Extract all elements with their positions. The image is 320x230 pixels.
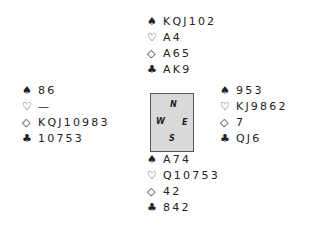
- east-hearts: KJ9862: [236, 99, 288, 115]
- compass-west-label: W: [156, 116, 165, 126]
- north-hearts: A4: [163, 30, 182, 46]
- south-clubs-row: ♣ 842: [147, 200, 220, 216]
- north-clubs: AK9: [163, 62, 191, 78]
- south-hearts: Q10753: [163, 168, 220, 184]
- compass-south-label: S: [169, 133, 175, 143]
- east-diamonds-row: ◇ 7: [220, 115, 288, 131]
- west-hand: ♠ 86 ♡ — ◇ KQJ10983 ♣ 10753: [22, 83, 110, 147]
- compass-north-label: N: [170, 99, 177, 109]
- north-clubs-row: ♣ AK9: [147, 62, 216, 78]
- west-hearts-row: ♡ —: [22, 99, 110, 115]
- south-hand: ♠ A74 ♡ Q10753 ◇ 42 ♣ 842: [147, 152, 220, 216]
- heart-icon: ♡: [22, 99, 38, 115]
- west-clubs-row: ♣ 10753: [22, 131, 110, 147]
- east-hearts-row: ♡ KJ9862: [220, 99, 288, 115]
- club-icon: ♣: [147, 62, 163, 78]
- heart-icon: ♡: [147, 168, 163, 184]
- east-diamonds: 7: [236, 115, 245, 131]
- heart-icon: ♡: [220, 99, 236, 115]
- north-hearts-row: ♡ A4: [147, 30, 216, 46]
- heart-icon: ♡: [147, 30, 163, 46]
- diamond-icon: ◇: [220, 115, 236, 131]
- club-icon: ♣: [22, 131, 38, 147]
- spade-icon: ♠: [147, 152, 163, 168]
- west-spades: 86: [38, 83, 56, 99]
- south-hearts-row: ♡ Q10753: [147, 168, 220, 184]
- north-diamonds: A65: [163, 46, 191, 62]
- diamond-icon: ◇: [147, 46, 163, 62]
- south-diamonds-row: ◇ 42: [147, 184, 220, 200]
- compass-east-label: E: [182, 117, 188, 127]
- compass-box: N W E S: [150, 93, 194, 152]
- south-spades: A74: [163, 152, 191, 168]
- west-spades-row: ♠ 86: [22, 83, 110, 99]
- east-clubs-row: ♣ QJ6: [220, 131, 288, 147]
- west-clubs: 10753: [38, 131, 84, 147]
- spade-icon: ♠: [147, 14, 163, 30]
- west-diamonds-row: ◇ KQJ10983: [22, 115, 110, 131]
- spade-icon: ♠: [22, 83, 38, 99]
- east-hand: ♠ 953 ♡ KJ9862 ◇ 7 ♣ QJ6: [220, 83, 288, 147]
- south-diamonds: 42: [163, 184, 181, 200]
- east-spades: 953: [236, 83, 264, 99]
- north-spades: KQJ102: [163, 14, 216, 30]
- club-icon: ♣: [220, 131, 236, 147]
- south-clubs: 842: [163, 200, 191, 216]
- west-diamonds: KQJ10983: [38, 115, 110, 131]
- south-spades-row: ♠ A74: [147, 152, 220, 168]
- east-clubs: QJ6: [236, 131, 262, 147]
- north-spades-row: ♠ KQJ102: [147, 14, 216, 30]
- diamond-icon: ◇: [22, 115, 38, 131]
- diamond-icon: ◇: [147, 184, 163, 200]
- west-hearts: —: [38, 99, 51, 115]
- club-icon: ♣: [147, 200, 163, 216]
- east-spades-row: ♠ 953: [220, 83, 288, 99]
- north-diamonds-row: ◇ A65: [147, 46, 216, 62]
- spade-icon: ♠: [220, 83, 236, 99]
- north-hand: ♠ KQJ102 ♡ A4 ◇ A65 ♣ AK9: [147, 14, 216, 78]
